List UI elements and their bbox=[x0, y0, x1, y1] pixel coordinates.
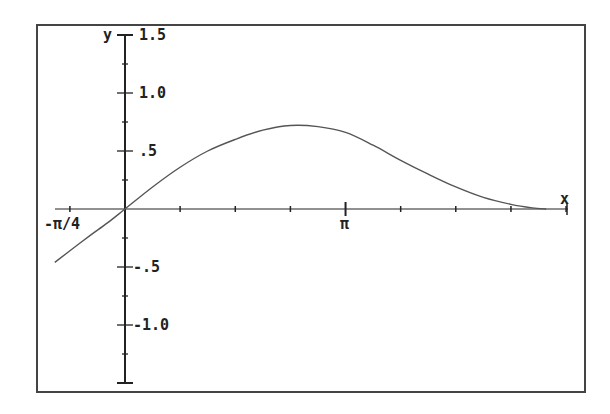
x-axis-label: x bbox=[560, 190, 569, 208]
y-tick-label-neg-1-0: -1.0 bbox=[133, 316, 169, 334]
function-curve bbox=[55, 125, 546, 262]
x-tick-label-neg-pi-4: -π/4 bbox=[44, 215, 80, 233]
y-tick-label-1-0: 1.0 bbox=[139, 84, 166, 102]
y-tick-label-neg-0-5: -.5 bbox=[133, 258, 160, 276]
y-axis-label: y bbox=[103, 26, 112, 44]
y-tick-label-1-5: 1.5 bbox=[139, 26, 166, 44]
y-tick-label-0-5: .5 bbox=[139, 142, 157, 160]
plot-canvas: y x 1.5 1.0 .5 -.5 -1.0 -π/4 π bbox=[0, 0, 610, 414]
x-tick-label-pi: π bbox=[340, 215, 349, 233]
